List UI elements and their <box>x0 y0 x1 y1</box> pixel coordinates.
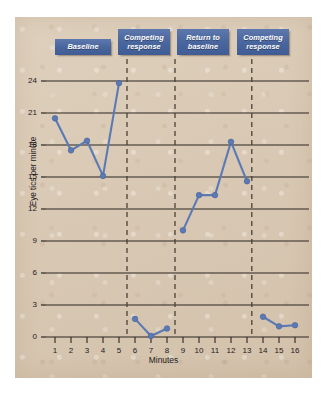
x-tick-label: 11 <box>208 347 222 355</box>
gridlines <box>46 81 309 305</box>
y-axis-ticks <box>41 81 46 337</box>
x-tick-label: 4 <box>96 347 110 355</box>
y-tick-label: 24 <box>19 77 37 85</box>
y-tick-label: 3 <box>19 301 37 309</box>
x-tick-label: 3 <box>80 347 94 355</box>
phase-dividers <box>127 59 252 337</box>
x-tick-label: 14 <box>256 347 270 355</box>
x-tick-label: 13 <box>240 347 254 355</box>
y-tick-label: 9 <box>19 237 37 245</box>
x-tick-label: 1 <box>48 347 62 355</box>
y-tick-label: 21 <box>19 109 37 117</box>
y-tick-label: 0 <box>19 333 37 341</box>
x-tick-label: 2 <box>64 347 78 355</box>
chart-plot-area <box>15 17 312 378</box>
x-tick-label: 8 <box>160 347 174 355</box>
y-axis-title: Eye tics per minute <box>29 124 38 220</box>
x-tick-label: 6 <box>128 347 142 355</box>
x-tick-label: 5 <box>112 347 126 355</box>
x-tick-label: 12 <box>224 347 238 355</box>
y-tick-label: 6 <box>19 269 37 277</box>
x-tick-label: 10 <box>192 347 206 355</box>
x-tick-label: 15 <box>272 347 286 355</box>
x-axis-title: Minutes <box>15 355 312 365</box>
chart-panel: Baseline Competing response Return to ba… <box>15 17 312 378</box>
x-axis-ticks <box>55 337 295 343</box>
x-tick-label: 7 <box>144 347 158 355</box>
x-tick-label: 16 <box>288 347 302 355</box>
x-tick-label: 9 <box>176 347 190 355</box>
